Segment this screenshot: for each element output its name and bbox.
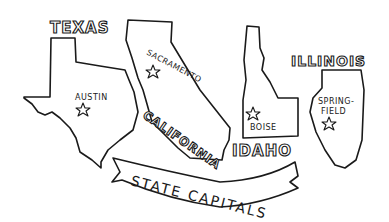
texas-label: TEXAS [50, 19, 109, 37]
illinois-label: ILLINOIS [291, 53, 366, 69]
state-capitals-illustration: TEXAS AUSTIN SACRAMENTO CALIFORNIA BOISE… [0, 0, 389, 222]
state-capitals-banner: STATE CAPITALS [112, 158, 298, 222]
springfield-label-line1: SPRING- [318, 97, 354, 106]
austin-label: AUSTIN [75, 93, 108, 102]
boise-label: BOISE [250, 123, 277, 132]
texas-state: TEXAS AUSTIN [24, 19, 138, 168]
idaho-state: BOISE IDAHO [232, 26, 298, 160]
texas-outline [24, 38, 138, 168]
idaho-label: IDAHO [232, 142, 292, 160]
idaho-outline [243, 26, 298, 138]
illinois-outline [310, 70, 364, 168]
springfield-label-line2: FIELD [321, 107, 346, 116]
illinois-state: ILLINOIS SPRING- FIELD [291, 53, 366, 168]
california-state: SACRAMENTO CALIFORNIA [126, 20, 230, 172]
